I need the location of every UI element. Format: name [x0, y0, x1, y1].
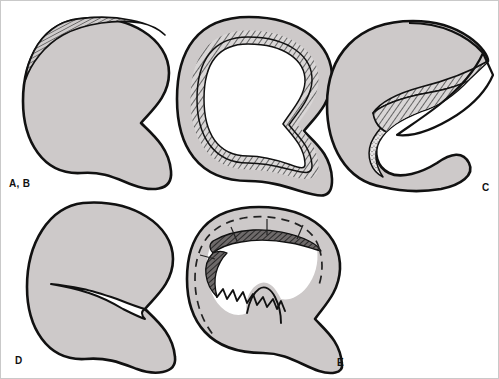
meniscus-diagram-canvas: A, B C: [1, 1, 499, 379]
figure-panel-container: A, B C: [0, 0, 499, 379]
panel-e-label: E: [337, 357, 344, 368]
panel-c-label: C: [482, 182, 490, 193]
panel-d-label: D: [15, 355, 23, 366]
panel-d: D: [15, 203, 175, 373]
panel-ab: A, B: [9, 17, 171, 189]
panel-middle: [177, 17, 332, 196]
panel-e: E: [187, 207, 344, 373]
panel-c: C: [327, 21, 493, 193]
panel-ab-label: A, B: [9, 178, 30, 189]
panel-d-body: [27, 203, 175, 373]
